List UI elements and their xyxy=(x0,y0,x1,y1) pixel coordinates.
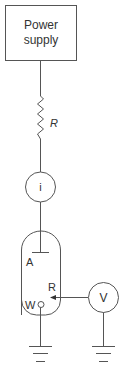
ground-working xyxy=(29,347,52,362)
ground-voltmeter xyxy=(92,347,115,362)
power-supply-label-1: Power xyxy=(24,18,58,32)
resistor-icon xyxy=(38,96,44,139)
resistor: R xyxy=(38,96,59,139)
resistor-label: R xyxy=(50,117,58,129)
working-electrode-label: W xyxy=(25,299,36,311)
reference-probe xyxy=(50,295,88,300)
working-electrode-icon xyxy=(38,302,44,308)
voltmeter: V xyxy=(89,283,119,313)
power-supply: Power supply xyxy=(6,6,77,61)
ammeter-label: i xyxy=(39,181,41,193)
ammeter: i xyxy=(26,172,56,202)
arrow-left-icon xyxy=(50,295,56,300)
circuit-diagram: Power supply R i A R W V xyxy=(0,0,126,370)
auxiliary-electrode-label: A xyxy=(26,256,34,268)
power-supply-label-2: supply xyxy=(24,33,59,47)
reference-electrode-label: R xyxy=(48,281,56,293)
voltmeter-label: V xyxy=(99,291,107,305)
